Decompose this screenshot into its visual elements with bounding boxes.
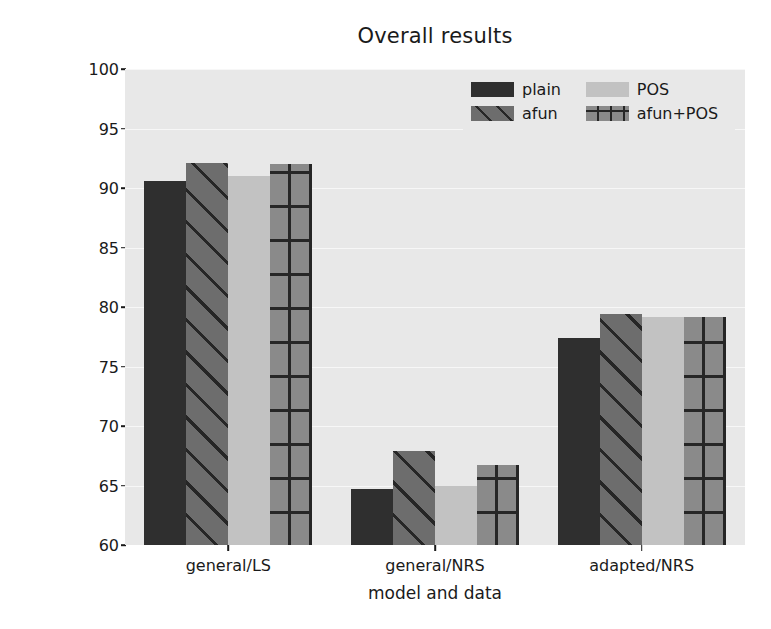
legend-swatch-icon xyxy=(471,106,514,121)
x-axis-tick-label: adapted/NRS xyxy=(589,556,694,575)
y-axis-tick-label: 60 xyxy=(79,536,119,555)
x-axis-tick-mark xyxy=(228,545,230,551)
x-axis-tick-mark xyxy=(434,545,436,551)
bar-afun-general-nrs xyxy=(393,451,435,545)
legend-hatch-pattern xyxy=(586,106,629,121)
x-axis-tick-mark xyxy=(641,545,643,551)
legend-entry-afun-pos: afun+POS xyxy=(586,104,727,123)
legend-entry-afun: afun xyxy=(471,104,570,123)
legend-swatch-icon xyxy=(586,82,629,97)
bar-plain-general-nrs xyxy=(351,489,393,545)
legend-hatch-pattern xyxy=(471,106,514,121)
bar-afun-pos-adapted-nrs xyxy=(684,317,726,545)
legend-label: POS xyxy=(637,80,669,99)
bar-afun-pos-general-nrs xyxy=(477,465,519,545)
y-axis-tick-label: 70 xyxy=(79,417,119,436)
y-axis-tick-label: 80 xyxy=(79,298,119,317)
chart-legend: plainPOSafunafun+POS xyxy=(463,74,735,130)
legend-swatch-icon xyxy=(471,82,514,97)
bar-hatch-pattern xyxy=(684,317,726,545)
y-axis-tick-label: 90 xyxy=(79,179,119,198)
y-axis-tick-label: 85 xyxy=(79,238,119,257)
x-axis-tick-label: general/NRS xyxy=(385,556,484,575)
gridline xyxy=(125,69,745,70)
legend-entry-plain: plain xyxy=(471,80,570,99)
bar-pos-adapted-nrs xyxy=(642,317,684,545)
y-axis-tick-label: 100 xyxy=(79,60,119,79)
bar-hatch-pattern xyxy=(477,465,519,545)
bar-plain-adapted-nrs xyxy=(558,338,600,545)
x-axis-tick-label: general/LS xyxy=(186,556,271,575)
x-axis-label: model and data xyxy=(125,583,745,603)
bar-pos-general-ls xyxy=(228,176,270,545)
bar-hatch-pattern xyxy=(393,451,435,545)
bar-afun-pos-general-ls xyxy=(270,164,312,545)
bar-hatch-pattern xyxy=(600,314,642,545)
bar-hatch-pattern xyxy=(270,164,312,545)
y-axis-tick-label: 75 xyxy=(79,357,119,376)
y-axis-tick-label: 65 xyxy=(79,476,119,495)
plot-area xyxy=(125,69,745,545)
bar-hatch-pattern xyxy=(186,163,228,545)
legend-entry-pos: POS xyxy=(586,80,727,99)
bar-afun-adapted-nrs xyxy=(600,314,642,545)
chart-figure: Overall results F1-score 100959085807570… xyxy=(0,0,771,629)
legend-label: afun xyxy=(522,104,558,123)
bar-afun-general-ls xyxy=(186,163,228,545)
bar-pos-general-nrs xyxy=(435,486,477,546)
legend-label: plain xyxy=(522,80,561,99)
legend-label: afun+POS xyxy=(637,104,719,123)
bar-plain-general-ls xyxy=(144,181,186,545)
chart-title: Overall results xyxy=(125,24,745,48)
y-axis-tick-label: 95 xyxy=(79,119,119,138)
legend-swatch-icon xyxy=(586,106,629,121)
